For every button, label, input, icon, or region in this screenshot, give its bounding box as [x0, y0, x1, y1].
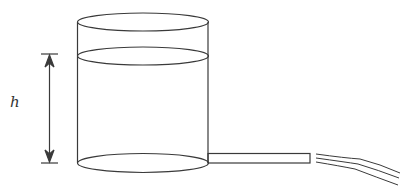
height-dimension-arrow: [41, 54, 58, 163]
height-label: h: [10, 93, 20, 111]
cylinder-top-rim: [78, 13, 209, 31]
cylinder-bottom: [78, 154, 209, 173]
tank-diagram: [0, 0, 420, 191]
water-jet: [316, 154, 400, 185]
water-surface: [78, 47, 209, 65]
outlet-pipe: [208, 154, 310, 164]
